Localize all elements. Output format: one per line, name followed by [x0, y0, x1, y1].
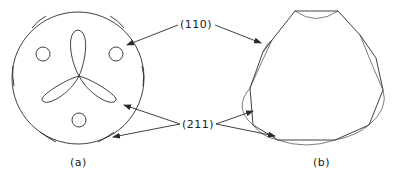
arrow-211-a1: [124, 105, 180, 124]
panel-b: (b): [242, 11, 384, 169]
panel-a: (a): [12, 12, 144, 169]
label-110: (110): [180, 18, 212, 31]
small-circle-right: [109, 47, 123, 61]
label-211-group: (211): [113, 105, 275, 137]
caption-b: (b): [313, 156, 330, 169]
arrow-110-a: [127, 25, 178, 45]
label-110-group: (110): [127, 18, 261, 45]
faceted-outline: [250, 11, 383, 140]
diagram-canvas: (a) (b) (110) (211): [0, 0, 394, 180]
small-circle-left: [36, 47, 50, 61]
arrow-110-b: [215, 25, 261, 43]
arrow-211-b2: [216, 124, 275, 136]
caption-a: (a): [70, 156, 87, 169]
label-211: (211): [182, 118, 214, 131]
facet-marks-110: [13, 16, 144, 142]
curved-facets: [242, 11, 384, 145]
arrow-211-b1: [216, 111, 253, 124]
trefoil: [42, 30, 116, 102]
small-circle-bottom: [72, 113, 86, 127]
